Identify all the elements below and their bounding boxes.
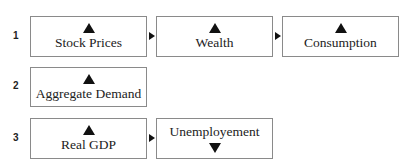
connector-arrow-icon [275,32,281,40]
box-label: Aggregate Demand [36,86,141,102]
unemployment-box: Unemployement [156,118,273,159]
consumption-box: Consumption [282,16,399,57]
row-1-number: 1 [13,30,19,41]
wealth-box: Wealth [156,16,273,57]
row-3-number: 3 [13,132,19,143]
decrease-arrow-icon [209,143,221,153]
row-2-number: 2 [13,80,19,91]
connector-arrow-icon [149,134,155,142]
real-gdp-box: Real GDP [30,118,147,159]
box-label: Real GDP [61,137,116,153]
increase-arrow-icon [83,74,95,84]
connector-arrow-icon [149,32,155,40]
increase-arrow-icon [83,125,95,135]
aggregate-demand-box: Aggregate Demand [30,67,147,107]
increase-arrow-icon [209,23,221,33]
increase-arrow-icon [83,23,95,33]
box-label: Unemployement [170,124,260,140]
box-label: Consumption [304,35,377,51]
box-label: Stock Prices [55,35,122,51]
stock-prices-box: Stock Prices [30,16,147,57]
box-label: Wealth [196,35,234,51]
increase-arrow-icon [335,23,347,33]
